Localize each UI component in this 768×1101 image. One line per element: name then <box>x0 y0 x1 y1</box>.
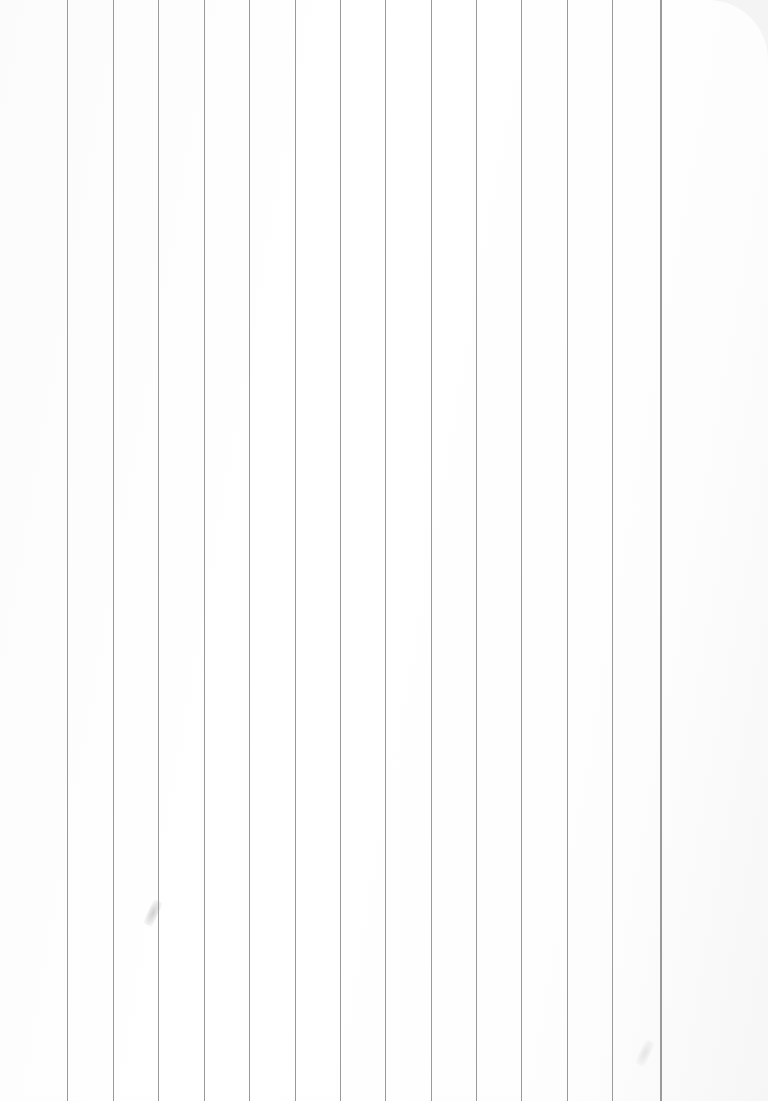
ruled-paper-sheet <box>0 0 768 1101</box>
ruled-line <box>385 0 386 1101</box>
ruled-line <box>249 0 250 1101</box>
ruled-line <box>113 0 114 1101</box>
ruled-line <box>295 0 296 1101</box>
ruled-line <box>204 0 205 1101</box>
ruled-line <box>612 0 613 1101</box>
ruled-line <box>660 0 662 1101</box>
ruled-line <box>158 0 159 1101</box>
ruled-line <box>340 0 341 1101</box>
ruled-line <box>476 0 477 1101</box>
ruled-line <box>567 0 568 1101</box>
ruled-line <box>521 0 522 1101</box>
ruled-line <box>431 0 432 1101</box>
ruled-line <box>67 0 68 1101</box>
